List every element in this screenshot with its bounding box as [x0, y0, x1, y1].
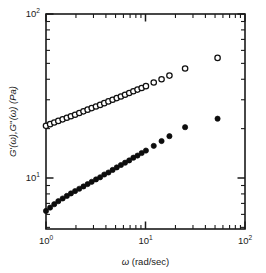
data-point-open-circle	[182, 66, 187, 71]
figure-panel: 100101102 101102 ω (rad/sec) G'(ω),G''(ω…	[0, 0, 266, 273]
plot-background	[0, 0, 266, 273]
data-point-filled-circle	[143, 148, 148, 153]
data-point-filled-circle	[159, 138, 164, 143]
log-log-scatter-plot: 100101102 101102 ω (rad/sec) G'(ω),G''(ω…	[0, 0, 266, 273]
data-point-filled-circle	[167, 134, 172, 139]
data-point-open-circle	[167, 73, 172, 78]
x-axis-title: ω (rad/sec)	[122, 256, 170, 267]
y-axis-title: G'(ω),G''(ω) (Pa)	[7, 86, 18, 157]
data-point-open-circle	[215, 55, 220, 60]
data-point-filled-circle	[183, 125, 188, 130]
data-point-open-circle	[151, 80, 156, 85]
y-axis-title-text: G'(ω),G''(ω) (Pa)	[7, 86, 18, 157]
data-point-open-circle	[159, 77, 164, 82]
data-point-filled-circle	[215, 116, 220, 121]
data-point-open-circle	[143, 83, 148, 88]
data-point-filled-circle	[151, 143, 156, 148]
